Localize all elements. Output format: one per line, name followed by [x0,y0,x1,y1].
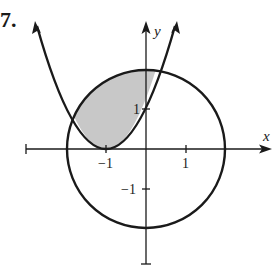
parabola-left-arrow-icon [32,21,41,34]
x-tick-label-neg1: −1 [98,156,113,171]
shaded-region [40,0,172,150]
graph: y x −1 1 1 −1 [0,0,273,277]
y-axis-label: y [152,23,161,39]
y-tick-label-neg1: −1 [121,182,136,197]
x-axis-label: x [262,128,270,144]
parabola-right-arrow-icon [171,21,180,34]
x-axis [26,144,272,154]
x-tick-label-1: 1 [182,156,189,171]
y-tick-label-1: 1 [133,102,140,117]
